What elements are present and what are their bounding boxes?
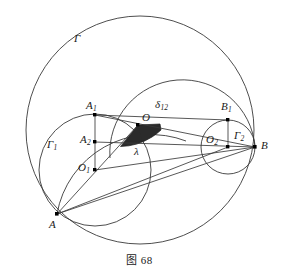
point-marker-O: [136, 123, 139, 126]
segment-O1-B: [95, 147, 255, 170]
point-marker-O2: [226, 145, 229, 148]
label-point-A2: A2: [80, 134, 91, 146]
point-marker-A: [55, 212, 59, 216]
label-gamma1: Γ1: [47, 139, 57, 151]
label-gamma2: Γ2: [234, 130, 244, 142]
segment-A-O2: [57, 147, 228, 214]
label-delta12: δ12: [155, 99, 168, 111]
label-point-B1: B1: [221, 101, 232, 113]
figure-68: Γ Γ1 Γ2 A B O A1 A2 B1 O1 O2 δ12 λ 图 68: [0, 0, 282, 279]
label-gamma: Γ: [74, 33, 80, 44]
point-marker-A1: [93, 113, 96, 116]
point-marker-O1: [93, 168, 96, 171]
point-marker-A2: [93, 140, 96, 143]
label-point-B: B: [261, 140, 268, 151]
label-point-O1: O1: [78, 162, 90, 174]
segment-A-B: [57, 147, 255, 214]
label-point-A: A: [49, 219, 56, 230]
figure-caption: 图 68: [126, 251, 153, 267]
label-point-O: O: [142, 112, 150, 123]
point-marker-B: [253, 145, 257, 149]
label-lambda: λ: [134, 146, 139, 157]
label-point-O2: O2: [206, 134, 218, 146]
point-marker-B1: [226, 118, 229, 121]
label-point-A1: A1: [86, 100, 97, 112]
